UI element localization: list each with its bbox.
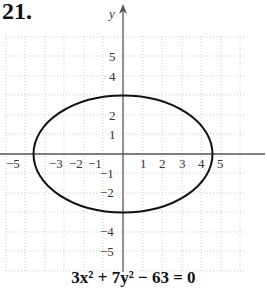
svg-text:5: 5 [109, 49, 116, 64]
svg-text:2: 2 [159, 156, 166, 171]
svg-text:−1: −1 [100, 166, 114, 181]
x-tick-labels: −5 −3 −2 −1 1 2 3 4 5 [6, 156, 224, 171]
svg-text:4: 4 [109, 69, 116, 84]
svg-text:1: 1 [109, 127, 116, 142]
svg-text:−5: −5 [100, 244, 114, 259]
svg-text:−3: −3 [49, 156, 63, 171]
equation-caption: 3x² + 7y² − 63 = 0 [0, 268, 267, 288]
svg-text:3: 3 [179, 156, 186, 171]
y-axis-label: y [107, 6, 115, 21]
ellipse-graph: y −5 −3 −2 −1 1 2 3 4 5 5 4 2 1 −1 −2 −4… [0, 0, 267, 296]
svg-text:5: 5 [217, 156, 224, 171]
svg-text:−2: −2 [100, 185, 114, 200]
svg-text:2: 2 [109, 108, 116, 123]
svg-text:−5: −5 [6, 156, 20, 171]
svg-text:−2: −2 [69, 156, 83, 171]
svg-text:4: 4 [198, 156, 205, 171]
svg-text:−4: −4 [100, 224, 114, 239]
svg-text:1: 1 [140, 156, 147, 171]
